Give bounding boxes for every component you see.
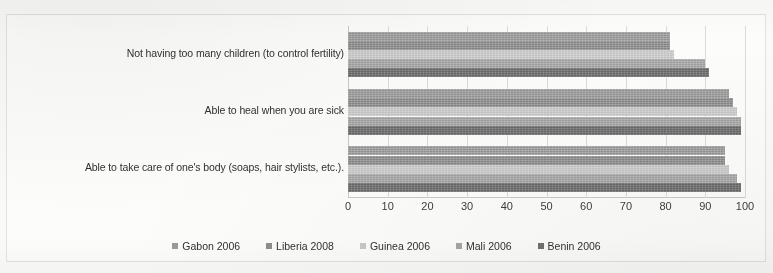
bar [348,68,709,77]
legend-item[interactable]: Gabon 2006 [172,240,240,252]
plot-area [348,26,745,198]
legend-item[interactable]: Mali 2006 [456,240,512,252]
bar [348,50,674,59]
category-label: Able to heal when you are sick [205,105,344,117]
legend-swatch-icon [456,243,462,249]
legend-label: Benin 2006 [548,240,601,252]
value-tick-label: 20 [421,200,433,212]
bar [348,146,725,155]
legend-label: Mali 2006 [466,240,512,252]
bar [348,89,729,98]
value-tick-label: 70 [620,200,632,212]
legend-swatch-icon [172,243,178,249]
bar [348,98,733,107]
bar [348,59,705,68]
value-tick-label: 100 [736,200,754,212]
category-axis-labels: Not having too many children (to control… [0,0,344,185]
bar [348,165,729,174]
value-axis-tick-labels: 0102030405060708090100 [348,200,745,218]
value-tick-label: 50 [540,200,552,212]
value-tick-label: 90 [699,200,711,212]
gridline [745,26,746,198]
bar [348,117,741,126]
bar [348,32,670,41]
bar [348,41,670,50]
value-tick-label: 10 [382,200,394,212]
legend-label: Gabon 2006 [182,240,240,252]
legend-swatch-icon [538,243,544,249]
legend-swatch-icon [266,243,272,249]
chart-legend: Gabon 2006Liberia 2008Guinea 2006Mali 20… [0,240,773,252]
chart-page: Not having too many children (to control… [0,0,773,273]
bar-group [348,26,745,83]
category-label: Not having too many children (to control… [127,48,344,60]
legend-label: Liberia 2008 [276,240,334,252]
value-tick-label: 30 [461,200,473,212]
bar [348,107,737,116]
legend-item[interactable]: Benin 2006 [538,240,601,252]
bar-group [348,83,745,140]
value-tick-label: 80 [659,200,671,212]
value-tick-label: 0 [345,200,351,212]
value-tick-label: 40 [501,200,513,212]
bar [348,174,737,183]
legend-item[interactable]: Guinea 2006 [360,240,430,252]
legend-swatch-icon [360,243,366,249]
legend-item[interactable]: Liberia 2008 [266,240,334,252]
legend-label: Guinea 2006 [370,240,430,252]
value-tick-label: 60 [580,200,592,212]
bar [348,183,741,192]
category-label: Able to take care of one's body (soaps, … [85,162,344,174]
bar [348,126,741,135]
bar-group [348,141,745,198]
bar [348,156,725,165]
